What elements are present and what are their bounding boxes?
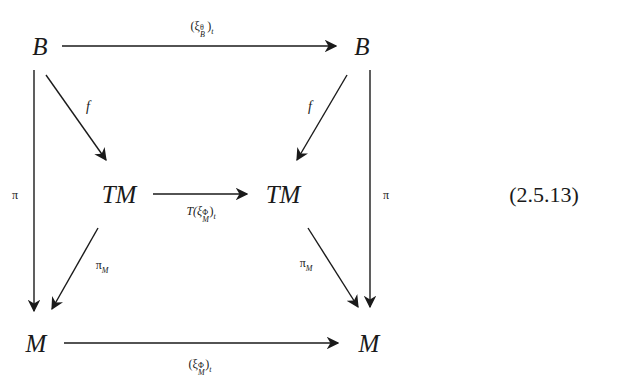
label-bottom-arrow: (ξΦM)t xyxy=(189,358,212,373)
label-pi-m-right: πM xyxy=(300,257,313,272)
label-bottom-t: t xyxy=(209,365,211,374)
arrow-f-right xyxy=(297,75,347,160)
label-middle-base: T(ξ xyxy=(186,204,202,218)
node-tm-right: TM xyxy=(266,182,301,207)
label-left-pi: π xyxy=(12,189,18,201)
node-tm-left: TM xyxy=(102,182,137,207)
label-bottom-base: (ξ xyxy=(189,357,198,371)
label-top-arrow: (ξθB)t xyxy=(191,20,214,35)
equation-number: (2.5.13) xyxy=(509,182,579,208)
label-f-left: f xyxy=(86,100,90,114)
node-m-left: M xyxy=(26,331,47,356)
label-right-pi: π xyxy=(383,189,389,201)
label-middle-sub: M xyxy=(202,216,209,224)
node-b-right: B xyxy=(354,34,369,59)
label-pi-m-left: πM xyxy=(96,259,109,274)
label-top-t: t xyxy=(211,27,213,36)
label-pi-m-right-sub: M xyxy=(306,264,313,273)
label-top-base: (ξ xyxy=(191,19,200,33)
label-f-right: f xyxy=(308,100,312,114)
label-middle-t: t xyxy=(213,212,215,221)
label-bottom-sub: M xyxy=(198,369,205,375)
label-pi-m-left-sub: M xyxy=(102,266,109,275)
label-top-sub: B xyxy=(200,31,205,39)
commutative-diagram: B B TM TM M M (ξθB)t T(ξΦM)t (ξΦM)t π π … xyxy=(0,0,631,375)
arrow-pi-m-left xyxy=(52,228,98,309)
node-m-right: M xyxy=(359,331,380,356)
label-middle-arrow: T(ξΦM)t xyxy=(186,205,215,220)
node-b-left: B xyxy=(32,34,47,59)
arrow-f-left xyxy=(46,75,106,160)
arrow-pi-m-right xyxy=(308,228,358,307)
